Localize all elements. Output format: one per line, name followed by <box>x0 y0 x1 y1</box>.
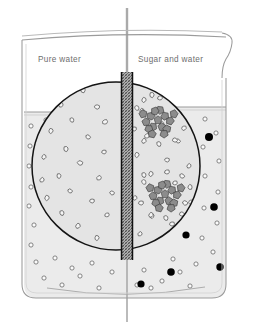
water-particle <box>216 190 220 194</box>
water-particle <box>60 283 64 287</box>
sugar-particle <box>137 280 144 287</box>
label-pure-water: Pure water <box>38 55 81 64</box>
water-particle <box>28 144 32 148</box>
water-particle <box>178 270 182 274</box>
water-particle <box>42 276 46 280</box>
water-particle <box>149 286 153 290</box>
membrane-hatch-slab <box>122 72 133 260</box>
sugar-particle <box>167 268 175 276</box>
water-particle <box>29 124 33 128</box>
water-particle <box>211 250 215 254</box>
water-particle <box>70 266 74 270</box>
water-particle <box>217 159 221 163</box>
water-particle <box>34 260 38 264</box>
water-particle <box>78 274 82 278</box>
water-molecule <box>174 96 179 101</box>
water-particle <box>27 204 31 208</box>
beaker-spout <box>222 33 232 78</box>
diagram-canvas: Pure water Sugar and water <box>0 0 254 330</box>
beaker-rim-front <box>22 35 226 40</box>
label-sugar-and-water: Sugar and water <box>138 55 203 64</box>
magnified-view <box>32 82 200 250</box>
sugar-particle <box>205 133 213 141</box>
water-particle <box>53 256 57 260</box>
sugar-particle <box>210 203 218 211</box>
water-particle <box>188 284 192 288</box>
water-particle <box>203 174 207 178</box>
water-particle <box>97 286 101 290</box>
water-particle <box>200 236 204 240</box>
water-particle <box>201 145 205 149</box>
water-particle <box>142 268 146 272</box>
water-particle <box>171 257 175 261</box>
water-particle <box>214 131 218 135</box>
magnifier-fill <box>32 82 200 250</box>
water-particle <box>202 206 206 210</box>
water-particle <box>110 270 114 274</box>
water-particle <box>203 117 207 121</box>
water-particle <box>160 279 164 283</box>
sugar-particle <box>216 263 223 270</box>
water-particle <box>27 164 31 168</box>
water-particle <box>215 221 219 225</box>
water-particle <box>29 185 33 189</box>
water-particle <box>32 223 36 227</box>
water-particle <box>194 262 198 266</box>
sugar-particle <box>182 231 189 238</box>
water-particle <box>90 261 94 265</box>
osmosis-diagram-figure: Pure water Sugar and water <box>0 0 254 330</box>
water-particle <box>29 243 33 247</box>
